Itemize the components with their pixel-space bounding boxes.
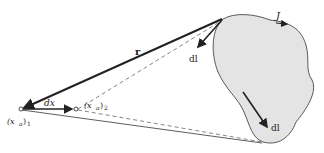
svg-text:(x: (x	[7, 117, 15, 126]
point-2-label: (x a ) 2	[84, 101, 108, 111]
dl-label-top: dl	[189, 54, 198, 64]
current-loop	[213, 15, 313, 143]
svg-text:1: 1	[27, 120, 31, 127]
point-1-label: (x a ) 1	[7, 117, 31, 127]
dashed-line-bottom	[78, 110, 262, 142]
svg-text:): )	[23, 117, 26, 126]
dashed-line-top	[78, 21, 221, 109]
r-label: r	[135, 46, 141, 57]
point-2	[74, 107, 78, 111]
dl-label-bottom: dl	[271, 123, 280, 133]
svg-text:(x: (x	[84, 101, 92, 110]
current-label: J	[274, 10, 281, 21]
svg-text:2: 2	[104, 104, 108, 111]
point-1	[19, 107, 23, 111]
solid-line-bottom	[22, 110, 262, 143]
magnetic-loop-diagram: J r dl dl dx (x a ) 1 (x a ) 2	[0, 0, 324, 153]
dx-label: dx	[44, 98, 55, 108]
svg-text:): )	[100, 101, 103, 110]
